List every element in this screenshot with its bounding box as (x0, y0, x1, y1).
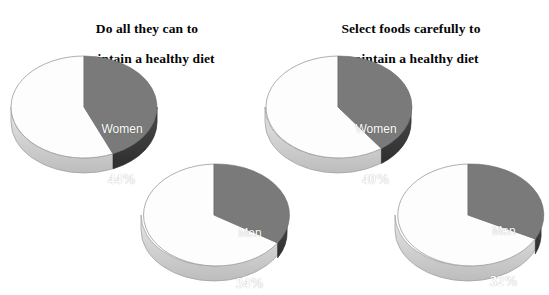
pie-chart-right-women: Women 40% (262, 50, 418, 170)
pie-chart-left-women: Women 44% (8, 50, 164, 170)
figure-canvas: Do all they can to maintain a healthy di… (0, 0, 549, 295)
pie-chart-left-men: Men 34% (138, 158, 294, 278)
panel-title-left-line1: Do all they can to (96, 21, 198, 36)
pie-chart-right-men: Men 32% (392, 158, 548, 278)
panel-title-right-line1: Select foods carefully to (341, 21, 480, 36)
